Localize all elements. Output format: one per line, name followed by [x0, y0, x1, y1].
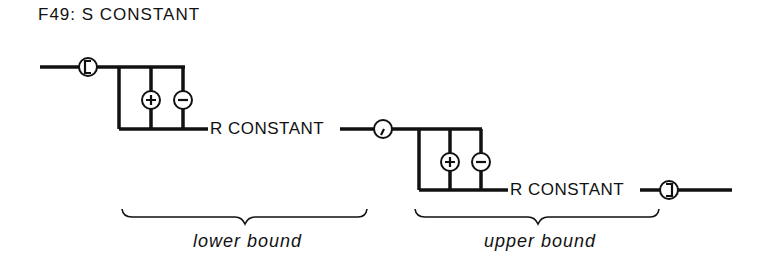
syntax-diagram — [0, 0, 762, 266]
lower-bound-label: lower bound — [193, 231, 302, 252]
first-r-constant: R CONSTANT — [208, 119, 326, 139]
second-r-constant: R CONSTANT — [508, 180, 626, 200]
upper-bound-label: upper bound — [484, 231, 596, 252]
